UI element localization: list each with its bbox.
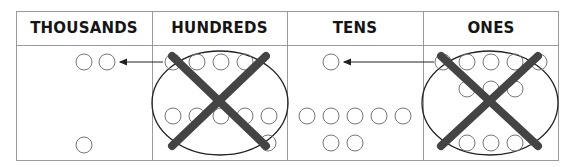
hundreds-counter-circle xyxy=(261,108,277,124)
thousands-counter-circle xyxy=(76,54,92,70)
hundreds-counter-circle xyxy=(165,108,181,124)
tens-counter-circle xyxy=(347,108,363,124)
tens-counter-circle xyxy=(347,135,363,151)
tens-counter-circle xyxy=(323,54,339,70)
thousands-counter-circle xyxy=(76,137,92,153)
cross-out-marks xyxy=(172,56,538,146)
diagram-drawing xyxy=(0,0,575,167)
counter-circles xyxy=(76,54,547,153)
ones-counter-circle xyxy=(483,135,499,151)
tens-counter-circle xyxy=(323,135,339,151)
tens-counter-circle xyxy=(299,108,315,124)
ones-counter-circle xyxy=(507,135,523,151)
hundreds-counter-circle xyxy=(213,54,229,70)
ones-counter-circle xyxy=(459,54,475,70)
tens-counter-circle xyxy=(323,108,339,124)
ones-counter-circle xyxy=(483,54,499,70)
tens-counter-circle xyxy=(395,108,411,124)
thousands-counter-circle xyxy=(99,54,115,70)
tens-counter-circle xyxy=(371,108,387,124)
ones-counter-circle xyxy=(459,135,475,151)
hundreds-counter-circle xyxy=(189,54,205,70)
